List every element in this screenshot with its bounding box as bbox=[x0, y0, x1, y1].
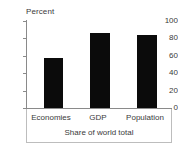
bar-gdp bbox=[90, 33, 110, 108]
x-tick-label-population: Population bbox=[118, 113, 172, 122]
x-tick-label-economies: Economies bbox=[26, 113, 76, 122]
bar-population bbox=[137, 35, 157, 108]
bar-economies bbox=[44, 58, 63, 108]
plot-area bbox=[26, 21, 172, 108]
bar-chart: Percent 100 80 60 40 20 0 Economies GDP … bbox=[0, 0, 178, 148]
x-tick-label-gdp: GDP bbox=[76, 113, 120, 122]
y-axis-title: Percent bbox=[26, 7, 54, 16]
x-axis-title: Share of world total bbox=[26, 128, 172, 137]
